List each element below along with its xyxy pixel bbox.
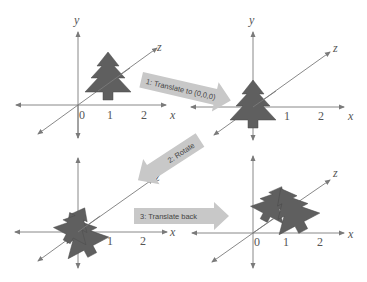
z-label: z: [332, 166, 338, 180]
panel-translated: y z x 1 2: [191, 13, 354, 140]
tick-2: 2: [317, 235, 323, 249]
tick-0: 0: [79, 108, 85, 122]
z-axis-neg: [212, 233, 253, 262]
tick-2: 2: [318, 109, 324, 123]
step-3-label: 3: Translate back: [140, 212, 197, 221]
x-label: x: [169, 225, 176, 239]
y-label: y: [248, 13, 255, 27]
step-1-arrow: 1: Translate to (0,0,0): [138, 65, 234, 115]
tick-2: 2: [141, 108, 147, 122]
tree: [85, 52, 131, 100]
y-label: y: [73, 13, 80, 27]
x-label: x: [169, 108, 176, 122]
tick-2: 2: [140, 234, 146, 248]
x-label: x: [347, 109, 354, 123]
tree: [230, 80, 276, 128]
x-label: x: [347, 227, 354, 241]
tick-1: 1: [107, 108, 113, 122]
tick-1: 1: [107, 234, 113, 248]
z-label: z: [332, 41, 338, 55]
tick-1: 1: [283, 235, 289, 249]
step-2-arrow: 2: Rotate: [130, 127, 208, 192]
z-axis-neg: [38, 105, 78, 134]
z-label: z: [156, 40, 162, 54]
tick-0: 0: [254, 235, 260, 249]
transform-diagram: y z x 0 1 2 y z x 1 2: [0, 0, 367, 282]
tick-1: 1: [284, 109, 290, 123]
step-3-arrow: 3: Translate back: [134, 202, 229, 230]
